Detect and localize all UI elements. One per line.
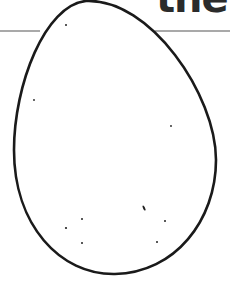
- egg-drawing: [0, 0, 230, 284]
- egg-coloring-page: the: [0, 0, 230, 284]
- egg-outline: [14, 1, 216, 274]
